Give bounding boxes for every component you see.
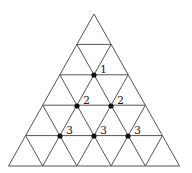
grid-point-dot (91, 133, 96, 138)
grid-line-right-diagonal (9, 14, 95, 166)
grid-point-dot (108, 103, 113, 108)
point-label: 3 (134, 124, 141, 137)
grid-point-dot (125, 133, 130, 138)
point-label: 2 (117, 94, 124, 107)
grid-line-left-diagonal (26, 136, 43, 166)
point-label: 1 (100, 63, 107, 76)
grid-point-dot (74, 103, 79, 108)
grid-line-left-diagonal (60, 75, 111, 166)
point-label: 2 (83, 94, 90, 107)
point-label: 3 (66, 124, 73, 137)
grid-line-left-diagonal (94, 14, 180, 166)
point-label: 3 (100, 124, 107, 137)
triangular-grid-diagram: 122333 (0, 0, 192, 173)
grid-line-right-diagonal (77, 75, 128, 166)
grid-line-right-diagonal (145, 136, 162, 166)
grid-point-dot (57, 133, 62, 138)
grid-point-dot (91, 72, 96, 77)
